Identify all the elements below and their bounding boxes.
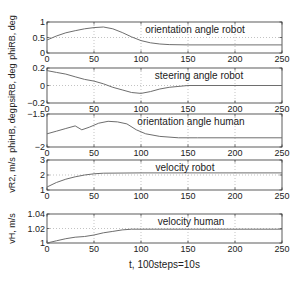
x-tick-label: 150 bbox=[180, 148, 195, 158]
x-tick-label: 250 bbox=[274, 104, 289, 114]
y-tick-label: 0.5 bbox=[32, 33, 45, 43]
y-axis-label: phiRB, deg bbox=[7, 15, 17, 60]
subplot-annotation: orientation angle robot bbox=[145, 24, 245, 35]
subplot-annotation: velocity robot bbox=[156, 162, 215, 173]
x-tick-label: 250 bbox=[274, 148, 289, 158]
x-tick-label: 200 bbox=[227, 104, 242, 114]
x-tick-label: 0 bbox=[44, 54, 49, 64]
x-tick-label: 100 bbox=[133, 54, 148, 64]
x-tick-label: 0 bbox=[44, 104, 49, 114]
y-tick-label: −0.2 bbox=[27, 98, 45, 108]
y-axis-label: vR2, m/s bbox=[7, 157, 17, 193]
x-tick-label: 50 bbox=[89, 104, 99, 114]
y-tick-label: 0.2 bbox=[32, 63, 45, 73]
x-tick-label: 250 bbox=[274, 244, 289, 254]
x-axis-label: t, 100steps=10s bbox=[129, 259, 200, 270]
subplot-annotation: velocity human bbox=[158, 216, 225, 227]
x-tick-label: 150 bbox=[180, 244, 195, 254]
x-tick-label: 50 bbox=[89, 244, 99, 254]
y-tick-label: 0 bbox=[40, 48, 45, 58]
subplot-annotation: orientation angle human bbox=[137, 116, 244, 127]
y-axis-label: vH, m/s bbox=[7, 213, 17, 244]
y-tick-label: −2 bbox=[35, 142, 45, 152]
x-tick-label: 100 bbox=[133, 148, 148, 158]
y-tick-label: 1 bbox=[40, 17, 45, 27]
x-tick-label: 50 bbox=[89, 191, 99, 201]
x-tick-label: 0 bbox=[44, 148, 49, 158]
y-tick-label: 1 bbox=[40, 238, 45, 248]
y-tick-label: 3 bbox=[40, 155, 45, 165]
x-tick-label: 250 bbox=[274, 191, 289, 201]
x-tick-label: 50 bbox=[89, 148, 99, 158]
x-tick-label: 200 bbox=[227, 54, 242, 64]
x-tick-label: 0 bbox=[44, 191, 49, 201]
y-tick-label: −1.5 bbox=[27, 109, 45, 119]
x-tick-label: 200 bbox=[227, 148, 242, 158]
x-tick-label: 150 bbox=[180, 191, 195, 201]
x-tick-label: 100 bbox=[133, 244, 148, 254]
y-tick-label: 1.02 bbox=[27, 224, 45, 234]
subplot-annotation: steering angle robot bbox=[155, 70, 244, 81]
y-tick-label: 0 bbox=[40, 81, 45, 91]
figure: 05010015020025000.51orientation angle ro… bbox=[0, 0, 303, 283]
y-tick-label: 2 bbox=[40, 170, 45, 180]
x-tick-label: 50 bbox=[89, 54, 99, 64]
x-tick-label: 200 bbox=[227, 244, 242, 254]
y-axis-label: phiHB, deg bbox=[7, 108, 17, 153]
x-tick-label: 100 bbox=[133, 104, 148, 114]
y-tick-label: 1 bbox=[40, 185, 45, 195]
x-tick-label: 150 bbox=[180, 104, 195, 114]
y-tick-label: 1.04 bbox=[27, 209, 45, 219]
x-tick-label: 0 bbox=[44, 244, 49, 254]
x-tick-label: 200 bbox=[227, 191, 242, 201]
x-tick-label: 100 bbox=[133, 191, 148, 201]
y-axis-label: psiRB, deg bbox=[7, 63, 17, 107]
x-tick-label: 150 bbox=[180, 54, 195, 64]
x-tick-label: 250 bbox=[274, 54, 289, 64]
